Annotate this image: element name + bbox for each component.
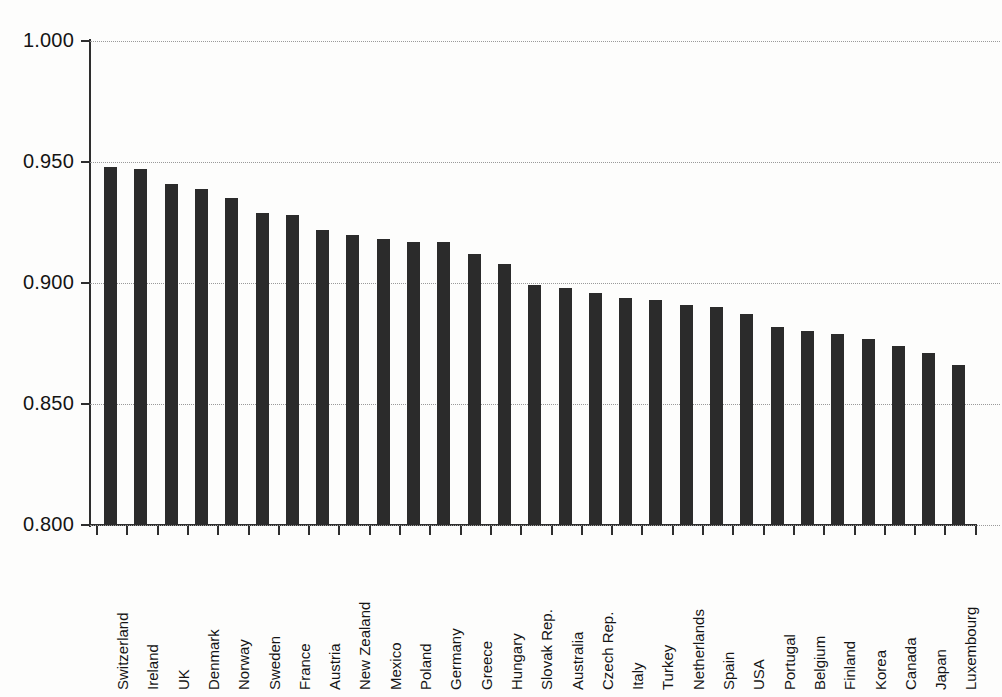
bar[interactable]: [771, 327, 784, 525]
gridline: [90, 41, 1000, 42]
x-axis-tick: [702, 526, 704, 535]
x-axis-label-text: Norway: [236, 639, 251, 690]
x-axis-label-text: Greece: [479, 641, 494, 690]
gridline: [90, 162, 1000, 163]
x-axis-tick: [157, 526, 159, 535]
x-axis-label-text: USA: [751, 659, 766, 690]
x-axis-label-text: Turkey: [660, 645, 675, 690]
x-axis-tick: [854, 526, 856, 535]
x-axis-tick: [248, 526, 250, 535]
x-axis-label-text: Austria: [327, 643, 342, 690]
y-axis-label: 0.850: [0, 393, 74, 413]
bar[interactable]: [407, 242, 420, 525]
x-axis-label-text: Hungary: [509, 633, 524, 690]
y-axis-label: 0.800: [0, 514, 74, 534]
x-axis-tick: [429, 526, 431, 535]
x-axis-label-text: Japan: [933, 649, 948, 690]
x-axis-tick: [126, 526, 128, 535]
bar[interactable]: [801, 331, 814, 525]
bar[interactable]: [680, 305, 693, 525]
bar[interactable]: [862, 339, 875, 525]
bar[interactable]: [195, 189, 208, 525]
bar[interactable]: [437, 242, 450, 525]
gridline: [90, 525, 1000, 526]
x-axis-tick: [217, 526, 219, 535]
x-axis-label-text: Canada: [903, 637, 918, 690]
x-axis-tick: [187, 526, 189, 535]
bar[interactable]: [165, 184, 178, 525]
plot-area: [90, 41, 1000, 525]
x-axis-tick: [460, 526, 462, 535]
y-axis-label: 0.900: [0, 272, 74, 292]
x-axis-tick: [944, 526, 946, 535]
bar[interactable]: [286, 215, 299, 525]
bar[interactable]: [892, 346, 905, 525]
x-axis-label-text: Denmark: [206, 629, 221, 690]
x-axis-label-text: Mexico: [388, 642, 403, 690]
x-axis-label-text: Spain: [721, 652, 736, 690]
x-axis-tick: [884, 526, 886, 535]
x-axis-label-text: Slovak Rep.: [539, 609, 554, 690]
x-axis-label-text: Finland: [842, 641, 857, 690]
x-axis-label-text: Luxembourg: [963, 607, 978, 690]
x-axis-label-text: New Zealand: [357, 602, 372, 690]
x-axis-tick: [975, 526, 977, 535]
x-axis-tick: [96, 526, 98, 535]
bar[interactable]: [649, 300, 662, 525]
x-axis-label-text: Italy: [630, 662, 645, 690]
bar[interactable]: [710, 307, 723, 525]
x-axis-tick: [611, 526, 613, 535]
bar[interactable]: [316, 230, 329, 525]
bar[interactable]: [104, 167, 117, 525]
bar[interactable]: [134, 169, 147, 525]
x-axis-tick: [672, 526, 674, 535]
x-axis-label-text: Netherlands: [691, 609, 706, 690]
bar[interactable]: [528, 285, 541, 525]
bar[interactable]: [922, 353, 935, 525]
x-axis-tick: [308, 526, 310, 535]
bar[interactable]: [831, 334, 844, 525]
x-axis-tick: [793, 526, 795, 535]
x-axis-tick: [823, 526, 825, 535]
x-axis-label-text: Czech Rep.: [600, 612, 615, 690]
x-axis-tick: [369, 526, 371, 535]
bar[interactable]: [225, 198, 238, 525]
x-axis-label-text: France: [297, 643, 312, 690]
x-axis-tick: [641, 526, 643, 535]
x-axis-tick: [581, 526, 583, 535]
x-axis-tick: [338, 526, 340, 535]
x-axis-tick: [732, 526, 734, 535]
bar[interactable]: [740, 314, 753, 525]
x-axis-tick: [763, 526, 765, 535]
bar[interactable]: [346, 235, 359, 525]
bar[interactable]: [377, 239, 390, 525]
y-axis-label: 1.000: [0, 30, 74, 50]
x-axis-tick: [490, 526, 492, 535]
x-axis-label-text: Sweden: [267, 636, 282, 690]
x-axis-label-text: Poland: [418, 643, 433, 690]
bar[interactable]: [256, 213, 269, 525]
bar[interactable]: [498, 264, 511, 525]
x-axis-tick: [914, 526, 916, 535]
bar[interactable]: [468, 254, 481, 525]
x-axis-label-text: Belgium: [812, 636, 827, 690]
x-axis-tick: [278, 526, 280, 535]
x-axis-label-text: UK: [176, 669, 191, 690]
bar[interactable]: [952, 365, 965, 525]
x-axis-tick: [551, 526, 553, 535]
y-axis-label: 0.950: [0, 151, 74, 171]
bar[interactable]: [559, 288, 572, 525]
bar[interactable]: [589, 293, 602, 525]
x-axis-tick: [520, 526, 522, 535]
x-axis-label-text: Korea: [873, 650, 888, 690]
x-axis-label-text: Switzerland: [115, 612, 130, 690]
bar[interactable]: [619, 298, 632, 525]
bar-chart: 1.0000.9500.9000.8500.800 SwitzerlandIre…: [0, 0, 1002, 697]
x-axis-tick: [399, 526, 401, 535]
x-axis-label-text: Germany: [448, 628, 463, 690]
x-axis-label-text: Australia: [570, 632, 585, 690]
x-axis-label-text: Ireland: [145, 644, 160, 690]
x-axis-label-text: Portugal: [782, 634, 797, 690]
